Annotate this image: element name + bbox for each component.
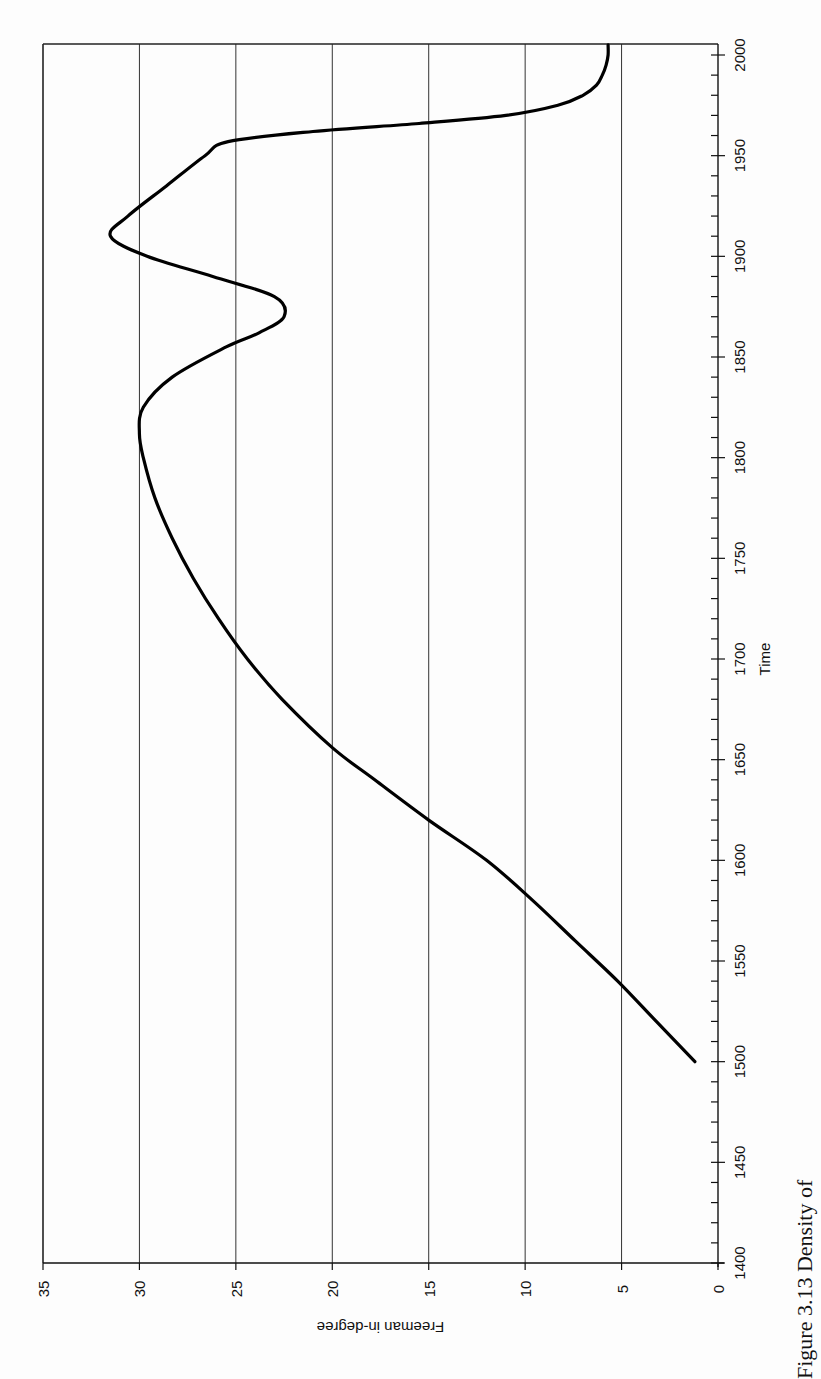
tick-labels: 1400145015001550160016501700175018001850…	[35, 38, 748, 1297]
y-tick-label: 20	[324, 1281, 341, 1298]
y-tick-label: 5	[614, 1285, 631, 1293]
data-series	[110, 45, 695, 1062]
x-tick-label: 1500	[731, 1045, 748, 1078]
x-tick-label: 1450	[731, 1146, 748, 1179]
x-tick-label: 1850	[731, 340, 748, 373]
y-axis-title: Freeman in-degree	[317, 1319, 445, 1336]
scanned-page: 1400145015001550160016501700175018001850…	[0, 0, 821, 1379]
x-tick-label: 1700	[731, 642, 748, 675]
figure-caption: Figure 3.13 Density of	[792, 1179, 817, 1379]
y-tick-label: 35	[35, 1281, 52, 1298]
y-tick-label: 15	[421, 1281, 438, 1298]
x-tick-label: 1550	[731, 944, 748, 977]
x-tick-label: 1900	[731, 240, 748, 273]
gridlines	[139, 44, 621, 1263]
y-tick-label: 30	[131, 1281, 148, 1298]
x-axis-title: Time	[756, 643, 773, 676]
y-tick-label: 0	[710, 1285, 727, 1293]
x-tick-label: 2000	[731, 38, 748, 71]
axes	[43, 44, 725, 1270]
x-tick-label: 1650	[731, 743, 748, 776]
x-tick-label: 1800	[731, 441, 748, 474]
x-tick-label: 1600	[731, 844, 748, 877]
x-tick-label: 1400	[731, 1246, 748, 1279]
series-line-freeman-in-degree	[110, 45, 695, 1062]
line-chart: 1400145015001550160016501700175018001850…	[0, 0, 821, 1379]
x-tick-label: 1750	[731, 542, 748, 575]
y-tick-label: 10	[517, 1281, 534, 1298]
x-tick-label: 1950	[731, 139, 748, 172]
y-tick-label: 25	[228, 1281, 245, 1298]
